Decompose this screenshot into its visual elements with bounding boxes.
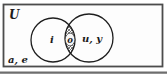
intersection-label: o [67,35,73,45]
venn-diagram-figure: U i o u, y a, e [0,0,167,77]
outside-region-label: a, e [8,54,28,66]
universal-set-label: U [9,8,21,22]
left-region-label: i [50,34,54,45]
venn-diagram-canvas: U i o u, y a, e [0,0,167,77]
right-region-label: u, y [82,33,103,45]
